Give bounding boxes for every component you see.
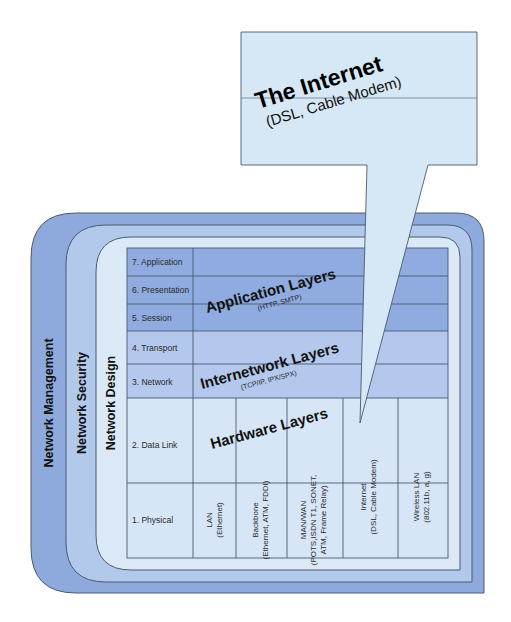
- osi-layer-1: 1. Physical: [132, 515, 173, 525]
- svg-text:ATM, Frame Relay): ATM, Frame Relay): [319, 485, 328, 555]
- osi-layer-7: 7. Application: [132, 257, 183, 267]
- svg-text:(802.11b, a, g): (802.11b, a, g): [422, 471, 431, 523]
- svg-text:(Ethernet, ATM, FDDI): (Ethernet, ATM, FDDI): [261, 480, 270, 559]
- svg-text:Internet: Internet: [359, 483, 368, 511]
- svg-text:(Ethernet): (Ethernet): [215, 502, 224, 538]
- network-security-label: Network Security: [75, 352, 89, 454]
- network-management-label: Network Management: [42, 338, 56, 468]
- osi-layer-5: 5. Session: [132, 313, 172, 323]
- osi-layer-2: 2. Data Link: [132, 440, 178, 450]
- col-wireless-lan: Wireless LAN (802.11b, a, g): [412, 471, 431, 523]
- network-design-label: Network Design: [104, 356, 118, 450]
- svg-text:(POTS,ISDN T1, SONET,: (POTS,ISDN T1, SONET,: [309, 475, 318, 566]
- svg-text:Backbone: Backbone: [251, 502, 260, 538]
- svg-text:Wireless LAN: Wireless LAN: [412, 473, 421, 522]
- osi-layer-6: 6. Presentation: [132, 285, 189, 295]
- svg-text:(DSL, Cable Modem): (DSL, Cable Modem): [369, 459, 378, 534]
- osi-layer-4: 4. Transport: [132, 343, 178, 353]
- osi-layer-3: 3. Network: [132, 377, 173, 387]
- osi-network-diagram: 7. Application 6. Presentation 5. Sessio…: [0, 0, 511, 622]
- svg-text:MAN/WAN: MAN/WAN: [299, 501, 308, 540]
- svg-text:LAN: LAN: [205, 512, 214, 528]
